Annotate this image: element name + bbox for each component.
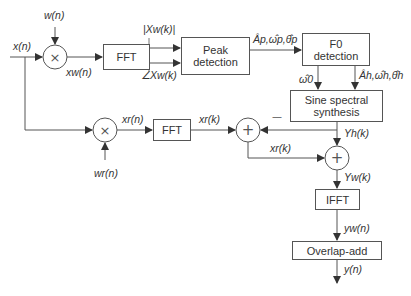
multiply-operator-bottom: × [95, 120, 115, 140]
label-input: x(n) [13, 41, 31, 52]
minus-sign: — [268, 110, 286, 122]
label-peaks: Âp,ω̂p,θ̂p [253, 34, 297, 45]
label-residual-spectrum: xr(k) [199, 114, 220, 125]
ifft-block: IFFT [315, 189, 360, 210]
multiply-operator-top: × [45, 47, 65, 67]
label-f0: ω̂0 [299, 74, 313, 85]
peak-detection-block: Peak detection [181, 37, 250, 75]
fft-block-bottom: FFT [153, 119, 191, 141]
label-harmonic-spectrum: Yh(k) [344, 128, 369, 139]
label-magnitude: |Xw(k)| [143, 24, 175, 35]
label-sum-time: yw(n) [344, 223, 370, 234]
label-residual-spectrum-2: xr(k) [270, 143, 291, 154]
label-window: w(n) [44, 10, 64, 21]
f0-detection-block: F0 detection [302, 33, 370, 66]
diagram-canvas: × × + + — FFT Peak detection F0 detectio… [0, 0, 411, 296]
fft-block-top: FFT [103, 44, 150, 70]
sine-spectral-synthesis-block: Sine spectral synthesis [290, 90, 383, 122]
label-harmonics: Âh,ω̂h,θ̂h [359, 70, 403, 81]
label-windowed: xw(n) [66, 67, 92, 78]
label-phase: ∠Xw(k) [141, 70, 177, 81]
add-operator-residual: + [238, 120, 258, 140]
label-residual-window: wr(n) [94, 168, 118, 179]
add-operator-output: + [327, 148, 347, 168]
label-output: y(n) [344, 264, 362, 275]
label-sum-spectrum: Yw(k) [344, 172, 371, 183]
overlap-add-block: Overlap-add [292, 241, 382, 260]
label-residual-time: xr(n) [122, 114, 144, 125]
